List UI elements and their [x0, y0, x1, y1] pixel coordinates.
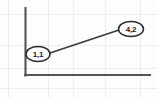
- line-chart-figure: 1,1 4,2: [0, 0, 157, 98]
- grid-lines: [0, 0, 157, 98]
- data-node-2-label: 4,2: [126, 25, 137, 34]
- data-node-1[interactable]: 1,1: [26, 46, 50, 61]
- data-node-1-label: 1,1: [33, 50, 44, 59]
- data-node-2[interactable]: 4,2: [119, 21, 144, 36]
- chart-axes: [25, 8, 150, 76]
- chart-canvas: 1,1 4,2: [0, 0, 157, 98]
- series-segment: [50, 30, 119, 53]
